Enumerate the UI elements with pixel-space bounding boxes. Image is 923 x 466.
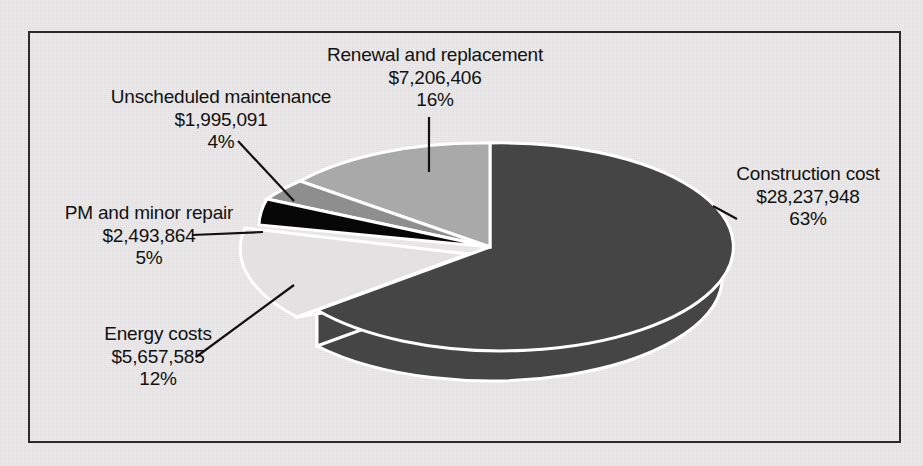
slice-label-name: PM and minor repair bbox=[40, 202, 258, 225]
slice-label-name: Construction cost bbox=[720, 163, 896, 186]
slice-label-value: $1,995,091 bbox=[96, 109, 346, 132]
slice-label-value: $2,493,864 bbox=[40, 225, 258, 248]
slice-label-percent: 5% bbox=[40, 247, 258, 270]
slice-label-value: $5,657,585 bbox=[60, 346, 256, 369]
slice-label-energy-costs: Energy costs $5,657,585 12% bbox=[60, 323, 256, 391]
slice-label-construction-cost: Construction cost $28,237,948 63% bbox=[720, 163, 896, 231]
slice-label-percent: 16% bbox=[322, 89, 548, 112]
slice-label-percent: 4% bbox=[96, 131, 346, 154]
slice-label-name: Energy costs bbox=[60, 323, 256, 346]
slice-label-unscheduled-maintenance: Unscheduled maintenance $1,995,091 4% bbox=[96, 86, 346, 154]
slice-label-percent: 63% bbox=[720, 208, 896, 231]
slice-label-value: $7,206,406 bbox=[322, 67, 548, 90]
slice-label-percent: 12% bbox=[60, 368, 256, 391]
slice-label-name: Renewal and replacement bbox=[322, 44, 548, 67]
slice-label-value: $28,237,948 bbox=[720, 186, 896, 209]
chart-page: Renewal and replacement $7,206,406 16% U… bbox=[0, 0, 923, 466]
slice-label-renewal-and-replacement: Renewal and replacement $7,206,406 16% bbox=[322, 44, 548, 112]
slice-label-pm-and-minor-repair: PM and minor repair $2,493,864 5% bbox=[40, 202, 258, 270]
slice-label-name: Unscheduled maintenance bbox=[96, 86, 346, 109]
